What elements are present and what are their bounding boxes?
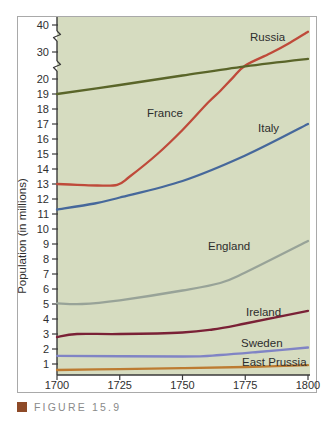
y-tick-label: 17	[37, 118, 49, 130]
y-tick-label: 14	[37, 163, 49, 175]
y-tick-label: 15	[37, 148, 49, 160]
y-tick-label: 2	[43, 343, 49, 355]
population-line-chart: 1234567891011121314151617181920304017001…	[0, 0, 331, 422]
y-tick-label: 13	[37, 178, 49, 190]
y-tick-label: 30	[37, 46, 49, 58]
y-tick-label: 10	[37, 223, 49, 235]
x-tick-label: 1725	[108, 379, 132, 391]
y-tick-label: 1	[43, 358, 49, 370]
caption-square-icon	[17, 402, 27, 412]
y-tick-label: 9	[43, 238, 49, 250]
y-tick-label: 19	[37, 88, 49, 100]
y-tick-label: 5	[43, 298, 49, 310]
series-label-sweden: Sweden	[241, 337, 283, 349]
y-tick-label: 3	[43, 328, 49, 340]
y-tick-label: 8	[43, 253, 49, 265]
y-tick-label: 16	[37, 133, 49, 145]
caption-text: FIGURE 15.9	[34, 401, 121, 413]
plot-area	[57, 17, 310, 375]
x-tick-label: 1775	[233, 379, 257, 391]
figure-caption: FIGURE 15.9	[17, 401, 121, 413]
y-tick-label: 6	[43, 283, 49, 295]
series-label-france: France	[147, 107, 183, 119]
series-label-ireland: Ireland	[246, 306, 281, 318]
y-tick-label: 18	[37, 103, 49, 115]
y-tick-label: 4	[43, 313, 49, 325]
y-tick-label: 40	[37, 19, 49, 31]
series-label-east-prussia: East Prussia	[242, 356, 307, 368]
y-axis-title: Population (in millions)	[16, 178, 28, 294]
y-tick-label: 7	[43, 268, 49, 280]
y-tick-label: 11	[38, 208, 49, 220]
x-tick-label: 1700	[45, 379, 69, 391]
x-tick-label: 1750	[170, 379, 194, 391]
series-label-italy: Italy	[258, 122, 279, 134]
figure-page: 1234567891011121314151617181920304017001…	[0, 0, 331, 422]
x-tick-label: 1800	[296, 379, 320, 391]
series-label-england: England	[208, 240, 250, 252]
y-tick-label: 20	[37, 73, 49, 85]
y-tick-label: 12	[37, 193, 49, 205]
series-label-russia: Russia	[250, 31, 286, 43]
